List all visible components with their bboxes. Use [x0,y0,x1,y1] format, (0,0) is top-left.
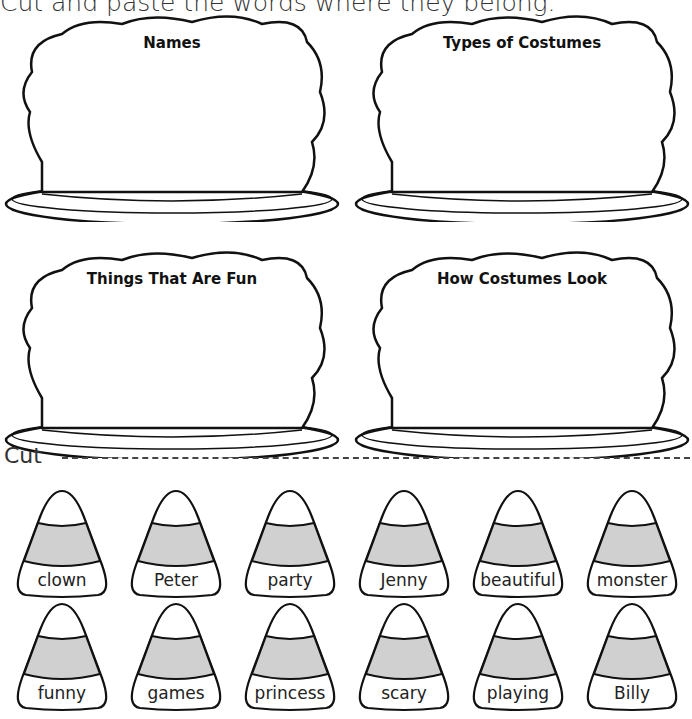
candy-corn-party[interactable]: party [240,487,340,599]
candy-corn-beautiful[interactable]: beautiful [468,487,568,599]
candy-word: monster [582,570,682,590]
candy-word: Billy [582,683,682,703]
cake-title: Things That Are Fun [2,270,342,288]
candy-corn-playing[interactable]: playing [468,600,568,712]
cake-types-of-costumes[interactable]: Types of Costumes [352,12,692,222]
candy-corn-clown[interactable]: clown [12,487,112,599]
candy-word: scary [354,683,454,703]
candy-corn-jenny[interactable]: Jenny [354,487,454,599]
candy-corn-games[interactable]: games [126,600,226,712]
candy-word: games [126,683,226,703]
candy-word: beautiful [468,570,568,590]
candy-corn-princess[interactable]: princess [240,600,340,712]
cut-label: Cut [4,443,42,468]
cake-things-that-are-fun[interactable]: Things That Are Fun [2,248,342,458]
cake-how-costumes-look[interactable]: How Costumes Look [352,248,692,458]
candy-corn-peter[interactable]: Peter [126,487,226,599]
dashed-cut-line [62,457,690,459]
cake-title: How Costumes Look [352,270,692,288]
candy-word: clown [12,570,112,590]
candy-word: Peter [126,570,226,590]
candy-word: playing [468,683,568,703]
candy-word: funny [12,683,112,703]
candy-corn-funny[interactable]: funny [12,600,112,712]
cake-title: Names [2,34,342,52]
cake-names[interactable]: Names [2,12,342,222]
candy-corn-billy[interactable]: Billy [582,600,682,712]
candy-corn-monster[interactable]: monster [582,487,682,599]
candy-corn-scary[interactable]: scary [354,600,454,712]
cake-title: Types of Costumes [352,34,692,52]
candy-word: Jenny [354,570,454,590]
cut-line-row: Cut [0,443,692,473]
candy-word: princess [240,683,340,703]
candy-word: party [240,570,340,590]
